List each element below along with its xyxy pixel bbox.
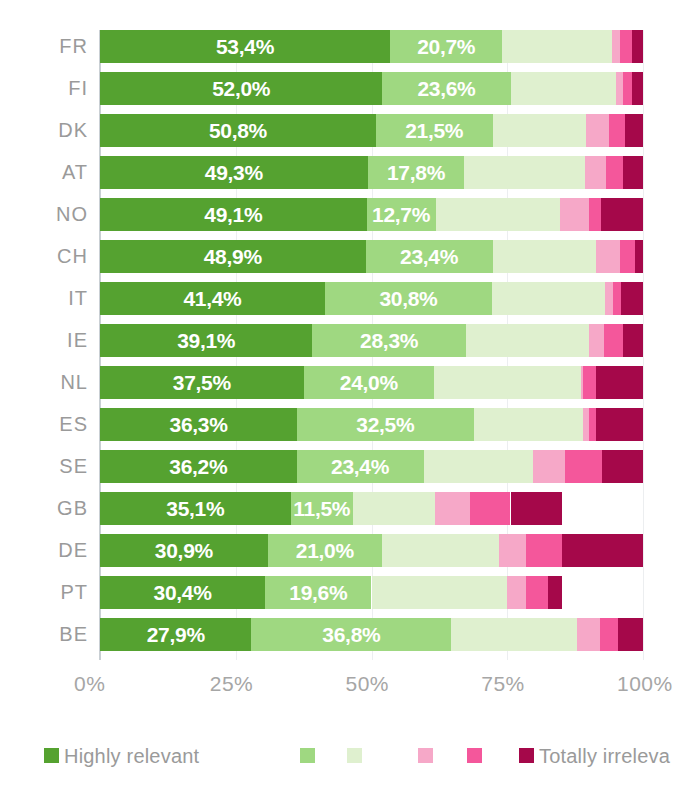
chart-legend: Highly relevantTotally irreleva [0,742,689,772]
bar-segment-5 [623,156,643,189]
legend-swatch-5[interactable] [519,748,534,763]
bar-row: 30,9%21,0% [100,534,643,567]
bar-value-label: 37,5% [100,366,304,399]
bar-row: 36,3%32,5% [100,408,643,441]
bar-value-label: 36,3% [100,408,297,441]
x-tick-75: 75% [481,672,525,696]
bar-row: 30,4%19,6% [100,576,643,609]
bar-row: 41,4%30,8% [100,282,643,315]
bar-value-label: 23,4% [366,240,493,273]
category-label-no: NO [0,198,88,231]
category-label-fi: FI [0,72,88,105]
bar-segment-4 [609,114,625,147]
bar-segment-2 [474,408,584,441]
bar-segment-2 [493,240,597,273]
bar-row: 48,9%23,4% [100,240,643,273]
bar-segment-5 [623,324,643,357]
category-label-be: BE [0,618,88,651]
bar-row: 50,8%21,5% [100,114,643,147]
bar-segment-4 [470,492,510,525]
bar-segment-5 [632,30,643,63]
stacked-bar-chart: FRFIDKATNOCHITIENLESSEGBDEPTBE 53,4%20,7… [0,0,689,802]
bar-segment-4 [565,450,602,483]
category-label-nl: NL [0,366,88,399]
category-label-at: AT [0,156,88,189]
bar-segment-2 [502,30,612,63]
bar-value-label: 36,2% [100,450,297,483]
bar-value-label: 41,4% [100,282,325,315]
bar-value-label: 12,7% [367,198,436,231]
bar-value-label: 52,0% [100,72,382,105]
category-label-gb: GB [0,492,88,525]
bar-segment-2 [466,324,589,357]
bar-row: 27,9%36,8% [100,618,643,651]
bar-segment-3 [596,240,620,273]
bar-row: 53,4%20,7% [100,30,643,63]
bar-value-label: 11,5% [291,492,353,525]
category-label-de: DE [0,534,88,567]
bar-segment-4 [600,618,618,651]
bar-segment-4 [620,240,635,273]
bar-segment-2 [436,198,561,231]
bar-segment-4 [620,30,632,63]
category-label-pt: PT [0,576,88,609]
bar-row: 39,1%28,3% [100,324,643,357]
bar-value-label: 20,7% [390,30,502,63]
bar-row: 35,1%11,5% [100,492,643,525]
bar-segment-4 [526,534,561,567]
bar-row: 36,2%23,4% [100,450,643,483]
bar-value-label: 49,3% [100,156,368,189]
bar-row: 49,1%12,7% [100,198,643,231]
bar-value-label: 21,0% [268,534,382,567]
bar-segment-3 [612,30,620,63]
bar-segment-4 [583,366,596,399]
bar-segment-5 [596,408,643,441]
bar-segment-5 [596,366,643,399]
bar-segment-2 [353,492,435,525]
bar-segment-4 [606,156,623,189]
bar-segment-5 [601,198,643,231]
bar-value-label: 27,9% [100,618,251,651]
legend-label-0: Highly relevant [64,742,199,770]
bar-value-label: 50,8% [100,114,376,147]
bar-value-label: 24,0% [304,366,434,399]
category-label-se: SE [0,450,88,483]
bar-segment-3 [585,156,605,189]
bar-value-label: 53,4% [100,30,390,63]
bar-segment-2 [511,72,616,105]
bar-segment-5 [635,240,643,273]
bar-segment-2 [372,576,508,609]
bar-segment-5 [511,492,562,525]
bar-segment-5 [621,282,643,315]
bar-segment-2 [464,156,585,189]
bar-value-label: 30,4% [100,576,265,609]
bar-segment-2 [451,618,577,651]
bar-value-label: 21,5% [376,114,493,147]
plot-area: 53,4%20,7%52,0%23,6%50,8%21,5%49,3%17,8%… [100,30,643,660]
bar-segment-4 [604,324,623,357]
legend-swatch-1[interactable] [300,748,315,763]
bar-value-label: 36,8% [251,618,451,651]
bar-segment-4 [526,576,548,609]
bar-value-label: 19,6% [265,576,371,609]
gridline-100 [643,30,644,660]
bar-segment-2 [434,366,581,399]
bar-value-label: 48,9% [100,240,366,273]
bar-segment-2 [424,450,533,483]
bar-value-label: 17,8% [368,156,465,189]
x-tick-50: 50% [346,672,390,696]
bar-row: 49,3%17,8% [100,156,643,189]
category-label-it: IT [0,282,88,315]
legend-swatch-4[interactable] [467,748,482,763]
bar-value-label: 28,3% [312,324,466,357]
legend-label-5: Totally irreleva [539,742,670,770]
bar-segment-5 [632,72,643,105]
bar-value-label: 49,1% [100,198,367,231]
legend-swatch-3[interactable] [418,748,433,763]
legend-swatch-0[interactable] [44,748,59,763]
bar-segment-3 [435,492,470,525]
legend-swatch-2[interactable] [347,748,362,763]
bar-segment-2 [492,282,605,315]
bar-segment-5 [562,534,643,567]
bar-value-label: 39,1% [100,324,312,357]
